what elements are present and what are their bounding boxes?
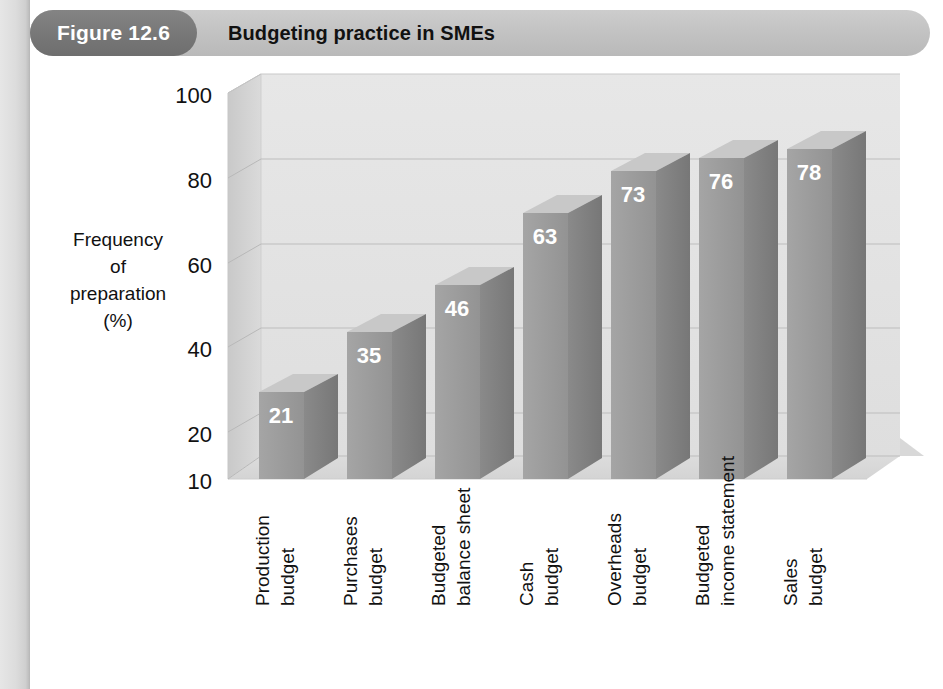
figure-number-pill: Figure 12.6 xyxy=(30,10,197,56)
bar-side-face xyxy=(832,131,866,479)
category-label-line-1: Budgeted xyxy=(428,525,449,606)
category-label-line-1: Budgeted xyxy=(692,525,713,606)
y-tick-label-80: 80 xyxy=(188,168,212,193)
bar-value-label: 35 xyxy=(357,343,381,368)
bar-side-face xyxy=(392,314,426,479)
bar-value-label: 73 xyxy=(621,182,645,207)
category-label-cash-budget: Cash budget xyxy=(516,547,562,606)
bar-cash-budget[interactable]: 63 xyxy=(523,195,602,479)
bar-value-label: 78 xyxy=(797,160,821,185)
figure-title: Budgeting practice in SMEs xyxy=(228,10,495,56)
bar-sales-budget[interactable]: 78 xyxy=(787,131,866,479)
bar-value-label: 46 xyxy=(445,296,469,321)
left-wall xyxy=(228,74,261,479)
bar-budgeted-balance-sheet[interactable]: 46 xyxy=(435,267,514,479)
category-label-line-2: balance sheet xyxy=(453,487,474,606)
bar-side-face xyxy=(480,267,514,479)
y-axis-title: Frequency of preparation (%) xyxy=(70,229,166,331)
category-label-line-1: Purchases xyxy=(340,516,361,606)
bar-purchases-budget[interactable]: 35 xyxy=(347,314,426,479)
page-margin xyxy=(0,0,29,689)
category-label-line-2: budget xyxy=(277,547,298,606)
category-label-line-2: budget xyxy=(541,547,562,606)
bar-side-face xyxy=(656,153,690,479)
bar-front-face xyxy=(611,171,656,479)
category-label-line-1: Overheads xyxy=(604,513,625,606)
category-label-budgeted-balance-sheet: Budgeted balance sheet xyxy=(428,487,474,606)
y-tick-label-20: 20 xyxy=(188,422,212,447)
bar-overheads-budget[interactable]: 73 xyxy=(611,153,690,479)
bar-front-face xyxy=(787,149,832,479)
floor-right-trim xyxy=(900,438,924,456)
y-axis-title-line-1: Frequency xyxy=(73,229,163,250)
y-axis-title-line-4: (%) xyxy=(103,310,133,331)
bar-value-label: 76 xyxy=(709,169,733,194)
bar-front-face xyxy=(523,213,568,479)
bar-value-label: 63 xyxy=(533,224,557,249)
y-tick-label-40: 40 xyxy=(188,337,212,362)
y-axis-title-line-2: of xyxy=(110,256,127,277)
margin-rule xyxy=(29,0,30,689)
category-label-sales-budget: Sales budget xyxy=(780,547,826,606)
footer-caption xyxy=(420,681,940,689)
y-axis-title-line-3: preparation xyxy=(70,283,166,304)
category-label-line-1: Sales xyxy=(780,558,801,606)
y-tick-label-60: 60 xyxy=(188,253,212,278)
bar-chart-3d: 100 80 60 40 20 10 Frequency of preparat… xyxy=(40,66,943,676)
bar-production-budget[interactable]: 21 xyxy=(259,374,338,479)
bar-front-face xyxy=(699,158,744,479)
category-label-production-budget: Production budget xyxy=(252,515,298,606)
chart-container: 100 80 60 40 20 10 Frequency of preparat… xyxy=(40,66,943,676)
bar-side-face xyxy=(744,140,778,479)
bar-budgeted-income-statement[interactable]: 76 xyxy=(699,140,778,479)
category-label-line-2: budget xyxy=(629,547,650,606)
category-label-line-2: budget xyxy=(365,547,386,606)
bar-value-label: 21 xyxy=(269,403,293,428)
category-label-line-1: Production xyxy=(252,515,273,606)
category-label-line-1: Cash xyxy=(516,562,537,606)
y-axis-tick-labels: 100 80 60 40 20 10 xyxy=(175,83,212,494)
y-tick-label-10: 10 xyxy=(188,469,212,494)
category-label-purchases-budget: Purchases budget xyxy=(340,516,386,606)
category-label-line-2: budget xyxy=(805,547,826,606)
figure-number-label: Figure 12.6 xyxy=(57,21,170,45)
y-tick-label-100: 100 xyxy=(175,83,212,108)
bar-side-face xyxy=(568,195,602,479)
category-label-overheads-budget: Overheads budget xyxy=(604,513,650,606)
category-label-line-2: income statement xyxy=(717,455,738,606)
